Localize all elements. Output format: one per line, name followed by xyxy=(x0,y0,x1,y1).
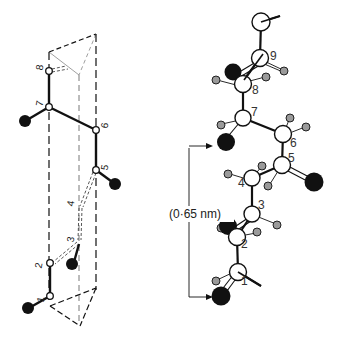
left-skeletal-model: 1 2 3 4 5 6 7 8 xyxy=(19,34,121,326)
label-8: 8 xyxy=(34,63,46,71)
label-6: 6 xyxy=(99,121,111,129)
molecular-diagram: 1 2 3 4 5 6 7 8 xyxy=(0,0,344,344)
left-atom-1 xyxy=(47,293,54,300)
label-7: 7 xyxy=(34,99,46,107)
left-atom-8 xyxy=(46,68,53,75)
label-4: 4 xyxy=(238,176,245,190)
label-1: 1 xyxy=(35,295,47,303)
left-substituents xyxy=(19,115,121,314)
repeat-distance-label: (0·65 nm) xyxy=(169,207,221,221)
right-atom-7 xyxy=(235,110,251,126)
label-8: 8 xyxy=(252,83,259,97)
label-5: 5 xyxy=(99,163,111,171)
double-bonds xyxy=(220,62,311,295)
label-1: 1 xyxy=(241,274,248,288)
label-2: 2 xyxy=(33,261,45,269)
right-atom-6 xyxy=(275,126,292,143)
label-9: 9 xyxy=(270,49,277,63)
right-ball-and-stick-model: 1 2 3 4 5 6 7 8 9 (0·65 nm) xyxy=(168,13,324,306)
label-3: 3 xyxy=(258,198,265,212)
label-3: 3 xyxy=(65,235,77,243)
left-atom-7 xyxy=(46,104,53,111)
right-atom-4 xyxy=(244,170,260,186)
hydrogen-atoms xyxy=(212,67,310,285)
label-2: 2 xyxy=(241,237,248,251)
back-bonds xyxy=(52,66,96,264)
label-4: 4 xyxy=(65,199,77,207)
right-atom-8 xyxy=(235,76,252,93)
label-6: 6 xyxy=(290,136,297,150)
prism-frame xyxy=(49,34,96,326)
left-atom-2 xyxy=(47,260,54,267)
label-7: 7 xyxy=(251,105,258,119)
label-5: 5 xyxy=(288,151,295,165)
